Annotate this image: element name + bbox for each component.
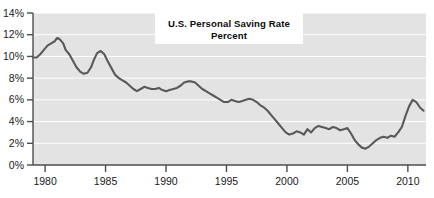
- y-tick-label: 2%: [9, 137, 24, 149]
- x-axis-tick-labels: 1980198519901995200020052010: [33, 175, 419, 187]
- y-tick-label: 0%: [9, 159, 24, 171]
- y-tick-label: 8%: [9, 72, 24, 84]
- chart-title-line1: U.S. Personal Saving Rate: [155, 18, 303, 30]
- x-tick-label: 2005: [336, 175, 360, 187]
- x-tick-label: 2010: [396, 175, 420, 187]
- y-tick-label: 6%: [9, 93, 24, 105]
- y-tick-label: 12%: [3, 28, 24, 40]
- x-tick-label: 2000: [275, 175, 299, 187]
- y-axis-ticks: [27, 13, 33, 165]
- y-tick-label: 14%: [3, 7, 24, 19]
- x-tick-label: 1985: [94, 175, 118, 187]
- chart-container: 0%2%4%6%8%10%12%14% 19801985199019952000…: [0, 0, 434, 198]
- y-tick-label: 10%: [3, 50, 24, 62]
- x-axis-ticks: [45, 165, 408, 172]
- x-tick-label: 1990: [154, 175, 178, 187]
- chart-title-box: U.S. Personal Saving Rate Percent: [155, 13, 303, 44]
- chart-title-line2: Percent: [155, 30, 303, 42]
- y-axis-tick-labels: 0%2%4%6%8%10%12%14%: [3, 7, 24, 171]
- x-tick-label: 1980: [33, 175, 57, 187]
- y-tick-label: 4%: [9, 115, 24, 127]
- x-tick-label: 1995: [215, 175, 239, 187]
